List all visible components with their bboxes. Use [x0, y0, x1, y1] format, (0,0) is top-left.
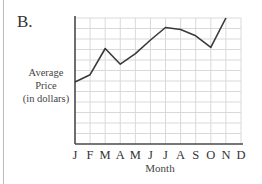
- x-tick-label: J: [148, 148, 153, 162]
- x-tick-label: A: [116, 148, 125, 162]
- x-tick-label: F: [87, 148, 94, 162]
- x-tick-label: N: [221, 148, 230, 162]
- x-tick-label: S: [192, 148, 199, 162]
- x-tick-label: J: [163, 148, 168, 162]
- x-tick-label: O: [206, 148, 215, 162]
- x-tick-label: M: [130, 148, 141, 162]
- x-tick-label: D: [236, 148, 245, 162]
- x-tick-labels: JFMAMJJASOND: [73, 148, 246, 162]
- x-axis-label: Month: [0, 162, 262, 174]
- x-tick-label: M: [100, 148, 111, 162]
- line-chart: JFMAMJJASOND: [0, 0, 262, 184]
- x-tick-label: A: [176, 148, 185, 162]
- x-tick-label: J: [73, 148, 78, 162]
